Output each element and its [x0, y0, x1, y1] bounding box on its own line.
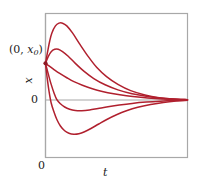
- initial-point-open: (0,: [9, 43, 27, 56]
- y-axis-label: x: [23, 77, 34, 83]
- initial-point-marker: [43, 61, 47, 65]
- x-axis-zero-tick-label: 0: [38, 160, 45, 171]
- y-axis-zero-tick-label: 0: [31, 94, 38, 105]
- figure-container: (0, x0) x 0 0 t: [0, 0, 198, 190]
- x-axis-label: t: [103, 167, 107, 178]
- initial-point-label: (0, x0): [9, 44, 43, 57]
- plot-canvas: [0, 0, 198, 190]
- plot-frame: [46, 14, 188, 158]
- initial-point-close: ): [39, 43, 43, 56]
